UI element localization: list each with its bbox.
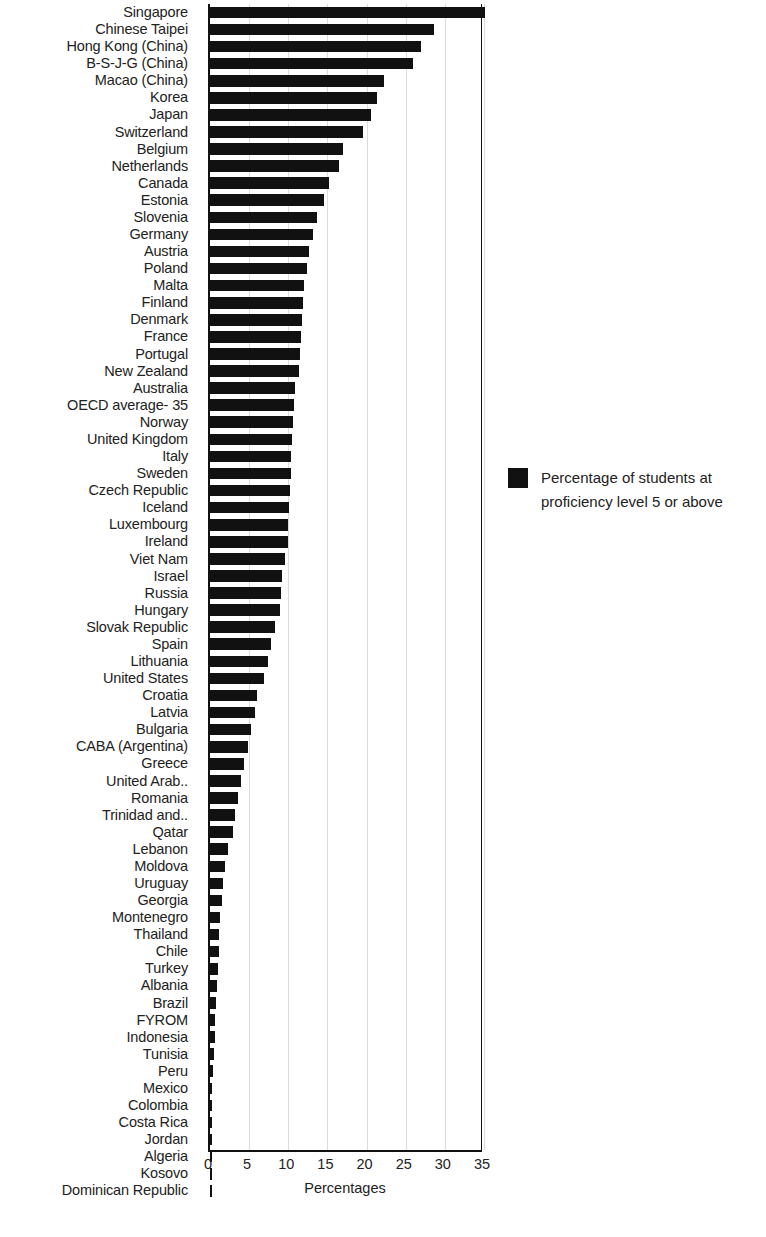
bar-row	[210, 363, 481, 380]
legend-label: Percentage of students at proficiency le…	[541, 466, 746, 514]
bar-row	[210, 755, 481, 772]
bar	[210, 638, 271, 650]
bar	[210, 809, 235, 821]
bar-row	[210, 670, 481, 687]
bar	[210, 177, 329, 189]
bar	[210, 604, 280, 616]
category-label: Brazil	[0, 995, 196, 1012]
bar-row	[210, 1080, 481, 1097]
bar	[210, 741, 248, 753]
bar	[210, 263, 307, 275]
category-label: Trinidad and..	[0, 807, 196, 824]
bar	[210, 126, 363, 138]
category-label: CABA (Argentina)	[0, 738, 196, 755]
gridline	[484, 4, 485, 1150]
category-label: Hungary	[0, 602, 196, 619]
bar-row	[210, 568, 481, 585]
bar-row	[210, 1131, 481, 1148]
bar	[210, 314, 302, 326]
bar	[210, 878, 223, 890]
bar-row	[210, 1114, 481, 1131]
category-label: Romania	[0, 790, 196, 807]
category-label: Russia	[0, 585, 196, 602]
bar	[210, 280, 304, 292]
bar-row	[210, 499, 481, 516]
bar-row	[210, 773, 481, 790]
category-label: Poland	[0, 260, 196, 277]
category-label: Dominican Republic	[0, 1182, 196, 1199]
bar-row	[210, 431, 481, 448]
bar	[210, 416, 293, 428]
bar-row	[210, 995, 481, 1012]
bar	[210, 587, 281, 599]
bar	[210, 980, 217, 992]
bar	[210, 673, 264, 685]
bar-row	[210, 516, 481, 533]
bar-row	[210, 294, 481, 311]
bar	[210, 553, 285, 565]
category-label: Hong Kong (China)	[0, 38, 196, 55]
bar-row	[210, 738, 481, 755]
bar-row	[210, 1097, 481, 1114]
category-label: Australia	[0, 380, 196, 397]
category-label: Luxembourg	[0, 516, 196, 533]
bar	[210, 1083, 212, 1095]
category-label: Costa Rica	[0, 1114, 196, 1131]
bar	[210, 690, 257, 702]
bar-row	[210, 858, 481, 875]
bar	[210, 946, 219, 958]
bar-row	[210, 243, 481, 260]
category-label: Switzerland	[0, 124, 196, 141]
bar-row	[210, 875, 481, 892]
bar-row	[210, 158, 481, 175]
category-label: Kosovo	[0, 1165, 196, 1182]
bar-row	[210, 38, 481, 55]
category-label: Czech Republic	[0, 482, 196, 499]
category-label: Finland	[0, 294, 196, 311]
bar	[210, 194, 324, 206]
bar-row	[210, 72, 481, 89]
category-label: Bulgaria	[0, 721, 196, 738]
bar-row	[210, 977, 481, 994]
bar	[210, 41, 421, 53]
category-label: Estonia	[0, 192, 196, 209]
bar-row	[210, 1012, 481, 1029]
bar-row	[210, 89, 481, 106]
bar	[210, 382, 295, 394]
category-label: Peru	[0, 1063, 196, 1080]
bar	[210, 1100, 212, 1112]
category-label: Israel	[0, 568, 196, 585]
bar	[210, 570, 282, 582]
category-label: Tunisia	[0, 1046, 196, 1063]
category-label: New Zealand	[0, 363, 196, 380]
x-tick-label: 15	[317, 1156, 333, 1172]
bar	[210, 536, 288, 548]
category-axis-labels: SingaporeChinese TaipeiHong Kong (China)…	[0, 4, 196, 1199]
bar-row	[210, 602, 481, 619]
category-label: Chinese Taipei	[0, 21, 196, 38]
category-label: Canada	[0, 175, 196, 192]
bar	[210, 348, 300, 360]
category-label: Moldova	[0, 858, 196, 875]
bar-row	[210, 619, 481, 636]
category-label: Indonesia	[0, 1029, 196, 1046]
category-label: Slovenia	[0, 209, 196, 226]
bar-row	[210, 551, 481, 568]
bar-row	[210, 533, 481, 550]
category-label: Chile	[0, 943, 196, 960]
legend-swatch-icon	[508, 468, 528, 488]
bar-row	[210, 124, 481, 141]
bar	[210, 143, 343, 155]
bar-row	[210, 175, 481, 192]
category-label: Malta	[0, 277, 196, 294]
bar-row	[210, 943, 481, 960]
category-label: France	[0, 328, 196, 345]
bar-row	[210, 448, 481, 465]
bar-row	[210, 1046, 481, 1063]
category-label: Singapore	[0, 4, 196, 21]
category-label: Croatia	[0, 687, 196, 704]
x-tick-label: 20	[356, 1156, 372, 1172]
bar-row	[210, 824, 481, 841]
bars-container	[210, 4, 481, 1150]
category-label: Slovak Republic	[0, 619, 196, 636]
